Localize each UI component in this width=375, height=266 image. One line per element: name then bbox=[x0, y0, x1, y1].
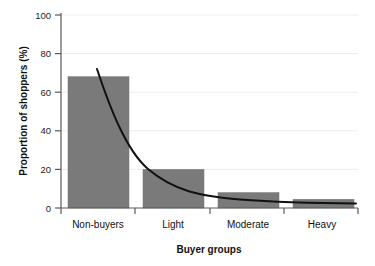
chart-canvas: 100 80 60 40 20 0 Non-buyers Light Moder… bbox=[0, 0, 375, 266]
y-tick-label-40: 40 bbox=[40, 125, 51, 136]
bar-light[interactable] bbox=[143, 169, 204, 208]
x-tick-label-heavy: Heavy bbox=[308, 219, 336, 230]
y-tick-label-100: 100 bbox=[35, 10, 51, 21]
y-axis-title: Proportion of shoppers (%) bbox=[18, 46, 29, 175]
x-tick-label-light: Light bbox=[162, 219, 184, 230]
y-tick-label-60: 60 bbox=[40, 87, 51, 98]
x-tick-label-moderate: Moderate bbox=[227, 219, 270, 230]
bar-non-buyers[interactable] bbox=[68, 77, 129, 208]
y-tick-label-80: 80 bbox=[40, 48, 51, 59]
y-tick-label-0: 0 bbox=[46, 203, 51, 214]
x-tick-label-non-buyers: Non-buyers bbox=[72, 219, 124, 230]
bar-chart: 100 80 60 40 20 0 Non-buyers Light Moder… bbox=[0, 0, 375, 266]
y-tick-label-20: 20 bbox=[40, 164, 51, 175]
x-axis-title: Buyer groups bbox=[176, 244, 241, 255]
